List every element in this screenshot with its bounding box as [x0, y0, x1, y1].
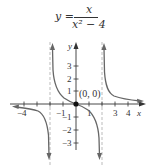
arrow-left-down — [47, 153, 52, 160]
y-tick-label: −1 — [62, 112, 72, 122]
origin-point-label: (0, 0) — [79, 88, 101, 100]
y-axis-label: y — [67, 41, 72, 51]
x-tick-label: 3 — [113, 108, 118, 118]
x-tick-label: 4 — [126, 108, 131, 118]
y-axis: y 3 2 1 −1 −2 −3 — [62, 41, 79, 150]
function-plot: −4 −1 1 3 4 x y 3 2 1 −1 −2 −3 — [0, 0, 153, 167]
y-tick-label: 3 — [67, 61, 72, 71]
y-tick-label: −2 — [62, 125, 72, 135]
curve-branches — [12, 43, 144, 160]
curve-right-branch — [104, 48, 140, 101]
origin-point — [73, 101, 78, 106]
y-tick-label: 1 — [67, 86, 72, 96]
arrow-middle-down — [97, 153, 102, 160]
x-tick-label: −4 — [17, 108, 27, 118]
y-tick-label: −3 — [62, 138, 72, 148]
x-axis-label: x — [136, 108, 141, 118]
arrow-middle-up — [50, 43, 55, 50]
y-tick-label: 2 — [67, 74, 72, 84]
arrow-left-end — [12, 105, 19, 110]
